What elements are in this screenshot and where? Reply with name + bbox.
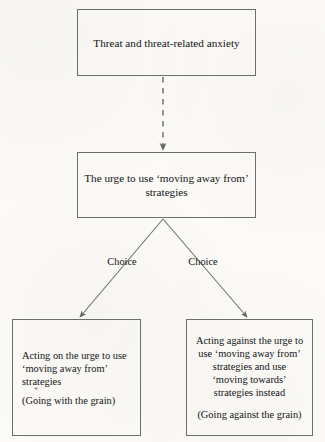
edge-urge-to-acting-on (80, 219, 163, 317)
node-acting-against: Acting against the urge to use ‘moving a… (186, 319, 313, 436)
edge-label-choice-right: Choice (188, 256, 217, 267)
node-acting-against-line-5: strategies instead (214, 386, 285, 399)
node-acting-against-line-2: use ‘moving away from’ (198, 347, 300, 360)
node-urge-line-2: strategies (145, 185, 187, 199)
flowchart-page: Threat and threat-related anxiety The ur… (0, 0, 325, 442)
node-acting-against-line-3: strategies and use (213, 360, 286, 373)
node-threat: Threat and threat-related anxiety (77, 9, 256, 76)
node-acting-against-line-1: Acting against the urge to (196, 334, 303, 347)
node-acting-against-line-4: ‘moving towards’ (212, 373, 286, 386)
node-urge: The urge to use ‘moving away from’ strat… (77, 152, 256, 218)
node-acting-on-parenthetical: (Going with the grain) (22, 394, 115, 407)
edge-urge-to-acting-against (163, 219, 247, 317)
node-acting-on: Acting on the urge to use ‘moving away f… (12, 319, 141, 436)
edge-label-choice-left: Choice (107, 256, 136, 267)
node-urge-line-1: The urge to use ‘moving away from’ (84, 171, 248, 185)
node-acting-on-line-1: Acting on the urge to use (22, 349, 127, 362)
node-acting-on-line-3: strategies (22, 375, 61, 388)
node-acting-against-parenthetical: (Going against the grain) (197, 408, 301, 421)
node-threat-line-1: Threat and threat-related anxiety (93, 36, 239, 50)
node-acting-on-line-2: ‘moving away from’ (22, 362, 108, 375)
